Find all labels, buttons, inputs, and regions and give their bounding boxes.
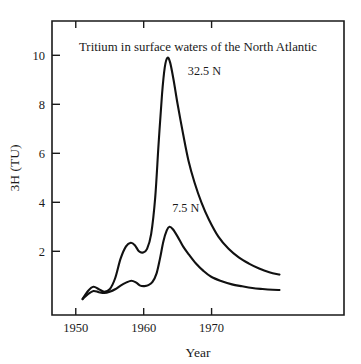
x-axis-title: Year [186, 345, 211, 360]
x-tick-label: 1970 [199, 321, 224, 335]
y-axis-title: 3H (TU) [7, 145, 22, 192]
x-axis-tick-labels: 195019601970 [63, 321, 224, 335]
y-tick-label: 4 [39, 196, 46, 210]
x-tick-label: 1960 [131, 321, 156, 335]
y-tick-label: 2 [39, 245, 45, 259]
series-label: 32.5 N [188, 64, 221, 78]
y-tick-label: 10 [33, 49, 46, 63]
series-label: 7.5 N [172, 201, 199, 215]
chart-title: Tritium in surface waters of the North A… [79, 40, 317, 54]
y-tick-label: 6 [39, 147, 45, 161]
tritium-line-chart: 195019601970 246810 32.5 N7.5 N Tritium … [0, 0, 361, 364]
y-tick-label: 8 [39, 98, 45, 112]
x-tick-label: 1950 [63, 321, 88, 335]
chart-figure: 195019601970 246810 32.5 N7.5 N Tritium … [0, 0, 361, 364]
